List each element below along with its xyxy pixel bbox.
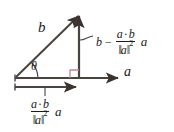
right-angle-marker bbox=[70, 70, 79, 78]
orthogonal-lead-term: b bbox=[96, 35, 102, 50]
orthogonal-norm-exponent: 2 bbox=[129, 39, 133, 48]
projection-trailing-vector: a bbox=[55, 104, 62, 120]
projection-norm-exponent: 2 bbox=[43, 109, 47, 118]
orthogonal-num-left: a bbox=[117, 27, 123, 41]
vector-projection-figure: b a θ b − a·b ‖a‖2 a a·b ‖a‖2 a bbox=[0, 0, 174, 132]
orthogonal-label-leader bbox=[80, 36, 93, 40]
angle-theta-label: θ bbox=[31, 60, 37, 72]
diagram-canvas bbox=[0, 0, 174, 132]
orthogonal-minus-sign: − bbox=[105, 35, 112, 50]
projection-denominator: ‖a‖2 bbox=[31, 111, 50, 126]
vector-b-arrow bbox=[16, 16, 79, 77]
projection-numerator: a·b bbox=[29, 98, 51, 111]
orthogonal-denominator: ‖a‖2 bbox=[116, 41, 135, 56]
vector-b-label: b bbox=[38, 20, 46, 35]
orthogonal-component-expression: b − a·b ‖a‖2 a bbox=[96, 28, 147, 56]
vector-a-label: a bbox=[124, 65, 131, 79]
projection-component-expression: a·b ‖a‖2 a bbox=[29, 98, 62, 126]
projection-fraction: a·b ‖a‖2 bbox=[29, 98, 51, 126]
orthogonal-fraction: a·b ‖a‖2 bbox=[115, 28, 137, 56]
orthogonal-numerator: a·b bbox=[115, 28, 137, 41]
orthogonal-trailing-vector: a bbox=[141, 34, 148, 50]
